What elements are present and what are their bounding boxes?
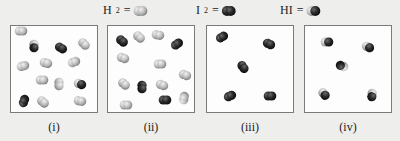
- h2-molecule-icon: [154, 59, 167, 68]
- h2-molecule-icon: [131, 29, 147, 44]
- h2-molecule-icon: [35, 94, 51, 109]
- h2-molecule-icon: [115, 52, 130, 65]
- h2-molecule-icon: [54, 78, 63, 91]
- i2-molecule-icon: [236, 59, 251, 75]
- hi-molecule-icon: [321, 37, 334, 46]
- iodine-atom: [29, 43, 38, 52]
- iodine-atom: [226, 6, 236, 16]
- i2-molecule-icon: [214, 30, 230, 44]
- h2-molecule-icon: [120, 100, 133, 109]
- hydrogen-atom: [123, 100, 132, 109]
- hydrogen-atom: [137, 6, 147, 16]
- h2-molecule-icon: [36, 75, 49, 84]
- i2-molecule-icon: [53, 41, 69, 55]
- hi-molecule-icon: [316, 86, 331, 102]
- h2-molecule-icon: [39, 57, 54, 69]
- iodine-atom: [267, 91, 276, 100]
- h2-molecule-icon: [66, 56, 81, 69]
- h2-molecule-icon: [15, 26, 28, 35]
- i2-molecule-icon: [18, 93, 31, 108]
- h2-molecule-icon: [177, 69, 192, 82]
- h2-molecule-icon: [16, 60, 31, 72]
- i2-molecule-icon: [264, 91, 277, 100]
- i2-molecule-icon: [114, 33, 130, 48]
- h2-molecule-icon: [151, 29, 165, 40]
- hydrogen-atom: [18, 26, 27, 35]
- h2-molecule-icon: [116, 76, 132, 91]
- i2-molecule-icon: [261, 37, 276, 51]
- i2-molecule-icon: [222, 89, 237, 103]
- h2-molecule-icon: [73, 95, 87, 106]
- iodine-atom: [324, 37, 333, 46]
- iodine-atom: [310, 6, 320, 16]
- hydrogen-atom: [157, 59, 166, 68]
- hi-molecule-icon: [29, 40, 38, 53]
- iodine-atom: [137, 84, 146, 93]
- hydrogen-atom: [54, 81, 63, 90]
- hydrogen-atom: [39, 75, 48, 84]
- iodine-atom: [162, 95, 171, 104]
- hi-molecule-icon: [360, 40, 375, 54]
- h2-molecule-icon: [76, 36, 91, 51]
- h2-molecule-icon: [154, 79, 169, 92]
- i2-molecule-icon: [169, 37, 185, 52]
- hi-molecule-icon: [334, 60, 349, 73]
- hi-molecule-icon: [307, 6, 321, 16]
- hi-molecule-icon: [72, 78, 87, 91]
- hi-molecule-icon: [367, 88, 377, 101]
- i2-molecule-icon: [222, 6, 236, 16]
- h2-molecule-icon: [134, 6, 148, 16]
- h2-molecule-icon: [178, 91, 189, 105]
- i2-molecule-icon: [159, 95, 172, 104]
- i2-molecule-icon: [137, 81, 146, 94]
- molecules-layer: [0, 0, 400, 141]
